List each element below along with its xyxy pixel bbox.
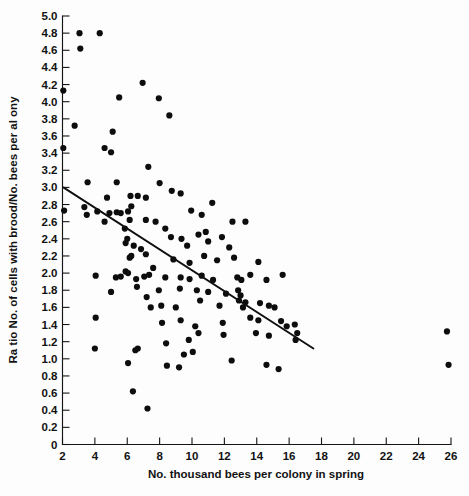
y-tick-label: 4.0: [42, 96, 58, 108]
data-point: [110, 129, 116, 135]
x-axis-group: 2468101214161820222426: [59, 438, 457, 462]
data-point: [247, 315, 253, 321]
data-point: [144, 405, 150, 411]
x-tick-label: 8: [156, 450, 163, 462]
y-tick-label: 4.4: [42, 61, 59, 73]
data-point: [226, 244, 232, 250]
data-point: [276, 366, 282, 372]
y-tick-label: 3.8: [42, 113, 59, 125]
data-point: [143, 195, 149, 201]
data-point: [199, 212, 205, 218]
data-point: [125, 360, 131, 366]
data-point: [93, 315, 99, 321]
y-tick-label: 3.6: [42, 130, 58, 142]
y-tick-label: 3.0: [42, 181, 58, 193]
data-point: [92, 345, 98, 351]
x-tick-labels: 2468101214161820222426: [59, 450, 457, 462]
data-point: [209, 200, 215, 206]
x-tick-label: 10: [186, 450, 199, 462]
data-point: [157, 180, 163, 186]
data-point: [123, 240, 129, 246]
data-point: [77, 45, 83, 51]
data-point: [203, 229, 209, 235]
y-tick-label: 1.2: [42, 336, 58, 348]
data-point: [145, 164, 151, 170]
data-point: [186, 276, 192, 282]
data-point: [257, 300, 263, 306]
data-point: [61, 207, 67, 213]
data-point: [253, 330, 259, 336]
data-point: [84, 212, 90, 218]
data-point: [150, 265, 156, 271]
data-point: [220, 332, 226, 338]
y-tick-label: 0.2: [42, 421, 58, 433]
data-point: [214, 257, 220, 263]
data-point: [195, 330, 201, 336]
data-point: [146, 272, 152, 278]
y-tick-label: 3.4: [42, 147, 59, 159]
data-point: [72, 123, 78, 129]
x-tick-label: 20: [347, 450, 360, 462]
data-point: [194, 287, 200, 293]
data-point: [294, 330, 300, 336]
y-tick-label: 2.0: [42, 267, 58, 279]
data-point: [148, 304, 154, 310]
data-point: [188, 207, 194, 213]
data-point: [60, 87, 66, 93]
data-point: [127, 193, 133, 199]
data-point: [205, 289, 211, 295]
data-point: [220, 320, 226, 326]
data-point: [229, 219, 235, 225]
x-tick-label: 16: [283, 450, 296, 462]
y-axis-group: 00.20.40.60.81.01.21.41.61.82.02.22.42.6…: [42, 10, 70, 451]
data-point: [216, 303, 222, 309]
data-point: [176, 364, 182, 370]
data-point: [101, 219, 107, 225]
data-point: [284, 323, 290, 329]
data-point: [133, 276, 139, 282]
data-point: [201, 253, 207, 259]
data-point: [445, 362, 451, 368]
y-tick-label: 1.0: [42, 353, 58, 365]
data-point: [159, 320, 165, 326]
data-point: [163, 340, 169, 346]
plot-canvas: 00.20.40.60.81.01.21.41.61.82.02.22.42.6…: [0, 0, 469, 496]
data-point: [168, 234, 174, 240]
data-point: [108, 289, 114, 295]
x-tick-label: 26: [445, 450, 458, 462]
data-point: [104, 195, 110, 201]
data-point: [125, 270, 131, 276]
data-point: [192, 323, 198, 329]
data-point: [156, 95, 162, 101]
data-point: [156, 287, 162, 293]
data-point: [231, 255, 237, 261]
x-tick-label: 18: [315, 450, 328, 462]
data-point: [138, 246, 144, 252]
data-point: [178, 236, 184, 242]
data-point: [186, 337, 192, 343]
x-tick-label: 22: [380, 450, 393, 462]
data-point: [125, 208, 131, 214]
data-point: [84, 179, 90, 185]
data-point: [135, 345, 141, 351]
data-point: [81, 204, 87, 210]
data-point: [255, 317, 261, 323]
x-tick-label: 2: [59, 450, 65, 462]
y-tick-label: 0.6: [42, 387, 58, 399]
data-point: [152, 219, 158, 225]
data-point: [263, 277, 269, 283]
data-point: [247, 272, 253, 278]
data-point: [134, 284, 140, 290]
data-points-group: [60, 30, 451, 412]
data-point: [166, 112, 172, 118]
data-point: [177, 285, 183, 291]
y-tick-label: 2.8: [42, 199, 59, 211]
y-tick-label: 1.8: [42, 284, 59, 296]
data-point: [116, 94, 122, 100]
data-point: [130, 388, 136, 394]
data-point: [97, 30, 103, 36]
data-point: [76, 30, 82, 36]
data-point: [197, 297, 203, 303]
data-point: [114, 179, 120, 185]
data-point: [178, 190, 184, 196]
